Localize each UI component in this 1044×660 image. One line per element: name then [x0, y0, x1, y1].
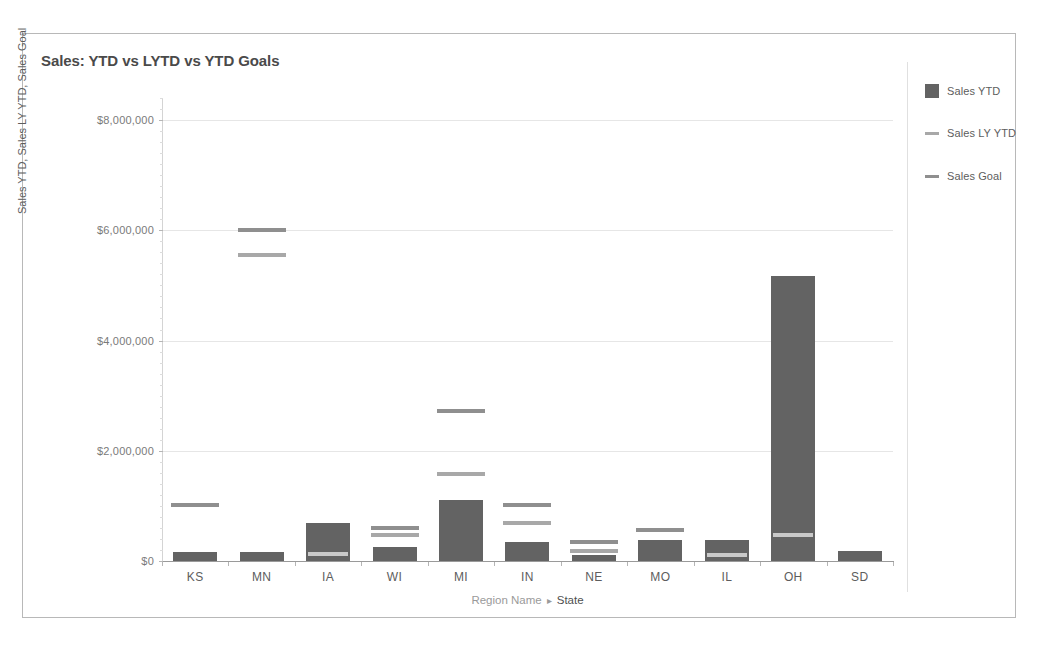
- chart-category-group[interactable]: [494, 98, 560, 561]
- x-axis-tick-mark: [162, 562, 163, 566]
- bar-mark[interactable]: [838, 551, 882, 561]
- chart-category-group[interactable]: [827, 98, 893, 561]
- bar-mark[interactable]: [705, 540, 749, 561]
- y-axis-minor-tick: [160, 385, 163, 386]
- y-axis-tick-label: $4,000,000: [97, 335, 154, 347]
- x-axis-title: Region Name▸State: [162, 594, 893, 606]
- x-axis-tick-mark: [228, 562, 229, 566]
- y-axis-minor-tick: [160, 296, 163, 297]
- x-axis-tick-label[interactable]: IA: [295, 570, 361, 584]
- chart-category-group[interactable]: [361, 98, 427, 561]
- y-axis-minor-tick: [160, 252, 163, 253]
- y-axis-minor-tick: [160, 98, 163, 99]
- reference-line-mark[interactable]: [437, 409, 485, 413]
- y-axis-minor-tick: [160, 363, 163, 364]
- y-axis-minor-tick: [160, 462, 163, 463]
- y-axis-minor-tick: [160, 374, 163, 375]
- y-axis-minor-tick: [160, 285, 163, 286]
- chart-category-group[interactable]: [295, 98, 361, 561]
- x-axis-tick-label[interactable]: IL: [694, 570, 760, 584]
- x-axis-tick-mark: [494, 562, 495, 566]
- chart-category-group[interactable]: [627, 98, 693, 561]
- x-axis-tick-mark: [694, 562, 695, 566]
- y-axis-minor-tick: [160, 418, 163, 419]
- y-axis-tick-mark: [159, 341, 163, 342]
- bar-mark[interactable]: [572, 555, 616, 561]
- y-axis-tick-label: $6,000,000: [97, 224, 154, 236]
- reference-line-mark[interactable]: [437, 472, 485, 476]
- bar-mark[interactable]: [505, 542, 549, 561]
- reference-line-mark[interactable]: [238, 228, 286, 232]
- reference-line-mark[interactable]: [238, 253, 286, 257]
- y-axis-minor-tick: [160, 318, 163, 319]
- bar-mark[interactable]: [638, 540, 682, 561]
- legend-item-label: Sales LY YTD: [947, 127, 1016, 139]
- reference-line-mark[interactable]: [503, 503, 551, 507]
- x-axis-tick-label[interactable]: MO: [627, 570, 693, 584]
- reference-line-mark[interactable]: [636, 528, 684, 532]
- x-axis-tick-mark: [760, 562, 761, 566]
- bar-mark[interactable]: [240, 552, 284, 561]
- legend-square-icon: [925, 84, 939, 98]
- x-axis-tick-label[interactable]: WI: [361, 570, 427, 584]
- reference-line-mark[interactable]: [773, 533, 813, 537]
- y-axis-minor-tick: [160, 142, 163, 143]
- legend: Sales YTDSales LY YTDSales Goal: [907, 84, 1017, 204]
- y-axis-tick-mark: [159, 451, 163, 452]
- x-axis-tick-label[interactable]: MI: [428, 570, 494, 584]
- x-axis-tick-label[interactable]: MN: [228, 570, 294, 584]
- x-axis-dimension-label: Region Name: [471, 594, 541, 606]
- bar-mark[interactable]: [439, 500, 483, 561]
- chart-category-group[interactable]: [561, 98, 627, 561]
- chart-category-group[interactable]: [228, 98, 294, 561]
- plot-area: [162, 98, 893, 561]
- plot-wrapper: Sales YTD, Sales LY YTD, Sales Goal $0$2…: [23, 34, 1017, 619]
- legend-line-icon: [925, 132, 939, 135]
- y-axis-minor-tick: [160, 550, 163, 551]
- reference-line-mark[interactable]: [308, 552, 348, 556]
- bar-mark[interactable]: [173, 552, 217, 561]
- reference-line-mark[interactable]: [171, 503, 219, 507]
- y-axis-minor-tick: [160, 352, 163, 353]
- reference-line-mark[interactable]: [570, 540, 618, 544]
- x-axis-tick-label[interactable]: IN: [494, 570, 560, 584]
- x-axis-tick-mark: [893, 562, 894, 566]
- x-axis-tick-label[interactable]: OH: [760, 570, 826, 584]
- x-axis-tick-label[interactable]: SD: [827, 570, 893, 584]
- y-axis-minor-tick: [160, 484, 163, 485]
- y-axis-minor-tick: [160, 186, 163, 187]
- y-axis-tick-label: $8,000,000: [97, 114, 154, 126]
- x-axis-tick-mark: [827, 562, 828, 566]
- reference-line-mark[interactable]: [707, 553, 747, 557]
- chart-category-group[interactable]: [428, 98, 494, 561]
- reference-line-mark[interactable]: [503, 521, 551, 525]
- legend-item-label: Sales Goal: [947, 170, 1002, 182]
- x-axis-field-label: State: [557, 594, 584, 606]
- x-axis-tick-label[interactable]: NE: [561, 570, 627, 584]
- y-axis-minor-tick: [160, 208, 163, 209]
- y-axis-tick-label: $0: [141, 555, 154, 567]
- reference-line-mark[interactable]: [570, 549, 618, 553]
- y-axis-minor-tick: [160, 263, 163, 264]
- bar-mark[interactable]: [771, 276, 815, 561]
- y-axis-minor-tick: [160, 396, 163, 397]
- legend-item[interactable]: Sales LY YTD: [925, 127, 1016, 139]
- y-axis-minor-tick: [160, 109, 163, 110]
- bar-mark[interactable]: [373, 547, 417, 561]
- x-axis-tick-mark: [627, 562, 628, 566]
- y-axis-minor-tick: [160, 274, 163, 275]
- y-axis-minor-tick: [160, 330, 163, 331]
- reference-line-mark[interactable]: [371, 533, 419, 537]
- chart-category-group[interactable]: [760, 98, 826, 561]
- reference-line-mark[interactable]: [371, 526, 419, 530]
- y-axis-minor-tick: [160, 164, 163, 165]
- legend-item[interactable]: Sales Goal: [925, 170, 1002, 182]
- legend-item[interactable]: Sales YTD: [925, 84, 1000, 98]
- x-axis-tick-label[interactable]: KS: [162, 570, 228, 584]
- chart-category-group[interactable]: [162, 98, 228, 561]
- y-axis-minor-tick: [160, 539, 163, 540]
- y-axis-tick-mark: [159, 120, 163, 121]
- legend-item-label: Sales YTD: [947, 85, 1000, 97]
- y-axis-minor-tick: [160, 197, 163, 198]
- chart-category-group[interactable]: [694, 98, 760, 561]
